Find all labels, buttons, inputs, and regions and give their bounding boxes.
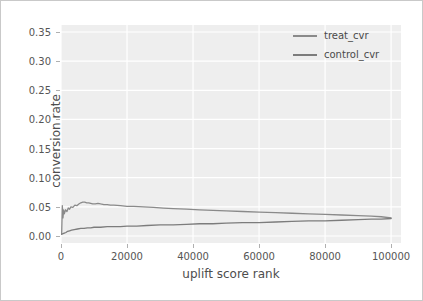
series-line-treat_cvr (62, 202, 391, 234)
y-axis-label: conversion rate (49, 32, 63, 250)
y-tick-label: 0.05 (1, 201, 51, 212)
y-tick-label: 0.30 (1, 56, 51, 67)
legend-swatch-treat_cvr (293, 35, 317, 37)
series-line-control_cvr (62, 219, 391, 235)
legend-item-treat_cvr[interactable]: treat_cvr (293, 29, 379, 42)
y-tick-label: 0.20 (1, 114, 51, 125)
x-tick-label: 60000 (243, 251, 275, 262)
legend-label: control_cvr (324, 49, 379, 60)
y-tick-label: 0.00 (1, 231, 51, 242)
y-tick-label: 0.25 (1, 85, 51, 96)
x-tick-label: 20000 (111, 251, 143, 262)
x-tick-label: 100000 (372, 251, 410, 262)
legend-item-control_cvr[interactable]: control_cvr (293, 48, 379, 61)
x-tick-label: 80000 (309, 251, 341, 262)
y-tick-label: 0.15 (1, 143, 51, 154)
x-tick-label: 0 (58, 251, 64, 262)
x-tick-mark (391, 244, 392, 248)
x-tick-mark (193, 244, 194, 248)
chart-figure: 0.000.050.100.150.200.250.300.35 0200004… (0, 0, 423, 301)
legend-label: treat_cvr (324, 30, 369, 41)
y-tick-label: 0.10 (1, 172, 51, 183)
legend-swatch-control_cvr (293, 54, 317, 56)
x-tick-mark (259, 244, 260, 248)
x-tick-label: 40000 (177, 251, 209, 262)
legend: treat_cvrcontrol_cvr (293, 29, 379, 61)
x-tick-mark (325, 244, 326, 248)
y-tick-label: 0.35 (1, 26, 51, 37)
x-tick-mark (127, 244, 128, 248)
x-axis-label: uplift score rank (61, 267, 401, 281)
